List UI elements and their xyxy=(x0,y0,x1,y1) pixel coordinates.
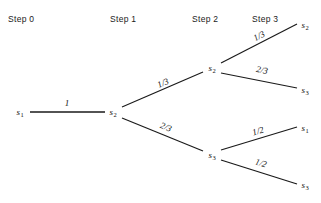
node-n0: s1 xyxy=(17,107,24,117)
step-header-3: Step 3 xyxy=(252,14,278,24)
tree-edges xyxy=(0,0,321,203)
node-n3ll: s3 xyxy=(302,180,309,190)
node-n2u: s2 xyxy=(209,63,216,73)
diagram-canvas: Step 0Step 1Step 2Step 3 s1s2s2s3s2s3s1s… xyxy=(0,0,321,203)
step-header-0: Step 0 xyxy=(8,14,34,24)
step-header-1: Step 1 xyxy=(110,14,136,24)
node-n3lu: s1 xyxy=(302,123,309,133)
edge-label-e2ul: 2/3 xyxy=(255,64,268,76)
tree-edge-e2ul xyxy=(221,73,297,88)
node-n3ul: s3 xyxy=(302,85,309,95)
edge-label-e0: 1 xyxy=(65,98,70,108)
step-header-2: Step 2 xyxy=(192,14,218,24)
node-n2l: s3 xyxy=(209,150,216,160)
node-n1: s2 xyxy=(110,107,117,117)
node-n3uu: s2 xyxy=(302,20,309,30)
